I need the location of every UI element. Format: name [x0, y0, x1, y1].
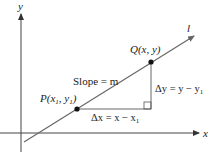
- delta-y-label: Δy = y − y1: [155, 83, 204, 96]
- p-label-part: , y: [59, 92, 70, 104]
- delta-x-sub: 1: [136, 117, 140, 125]
- point-q: [148, 59, 153, 64]
- line-label: l: [187, 22, 190, 34]
- p-label-part: ): [72, 92, 77, 105]
- delta-x-text: Δx = x − x: [91, 112, 137, 123]
- delta-x-label: Δx = x − x1: [91, 112, 140, 125]
- delta-y-text: Δy = y − y: [155, 83, 201, 94]
- p-label-part: P(x: [39, 92, 55, 105]
- y-axis-label: y: [17, 0, 23, 12]
- right-angle-marker: [144, 102, 151, 109]
- slope-label: Slope = m: [73, 75, 119, 87]
- slope-diagram: y x l Q(x, y) P(x1, y1) Slope = m Δy = y…: [0, 0, 213, 162]
- delta-y-sub: 1: [200, 88, 204, 96]
- point-p: [74, 106, 79, 111]
- point-p-label: P(x1, y1): [39, 92, 77, 106]
- x-axis-label: x: [202, 127, 208, 139]
- point-q-label: Q(x, y): [130, 43, 161, 56]
